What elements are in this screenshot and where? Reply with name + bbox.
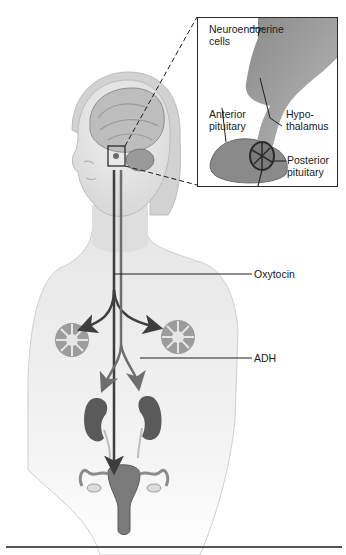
cerebellum	[126, 149, 154, 171]
label-anterior: Anterior	[209, 108, 246, 120]
label-hypo: Hypo-	[286, 108, 314, 120]
label-adh: ADH	[254, 352, 276, 364]
torso	[28, 220, 238, 555]
figure: Neuroendocrine cells Anterior pituitary …	[0, 0, 346, 555]
label-thalamus: thalamus	[286, 120, 329, 132]
label-posterior-pituitary: pituitary	[287, 166, 324, 178]
label-neuroendocrine: Neuroendocrine	[209, 23, 284, 35]
pituitary-inset: Neuroendocrine cells Anterior pituitary …	[197, 17, 338, 187]
label-posterior: Posterior	[287, 154, 329, 166]
label-oxytocin: Oxytocin	[254, 268, 295, 280]
left-mammary-gland	[55, 323, 89, 357]
label-cells: cells	[209, 35, 230, 47]
label-anterior-pituitary: pituitary	[209, 120, 246, 132]
posterior-pituitary	[250, 142, 274, 170]
bottom-rule	[6, 546, 342, 548]
right-mammary-gland	[161, 320, 195, 354]
